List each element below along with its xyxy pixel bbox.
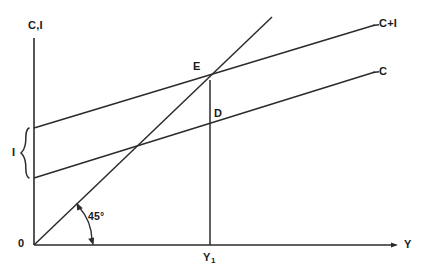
origin-label: 0 xyxy=(18,238,24,249)
y-axis-label: C,I xyxy=(28,20,43,31)
x-axis-label: Y xyxy=(404,239,412,250)
angle-arc-arrowhead-top xyxy=(77,203,83,211)
investment-bracket-label: I xyxy=(12,147,15,158)
c-plus-i-line xyxy=(34,25,375,128)
diagram-canvas xyxy=(0,0,422,279)
economics-diagram: C,I Y 0 C+I C E D I 45° Y1 xyxy=(0,0,422,279)
equilibrium-income-subscript: 1 xyxy=(211,256,216,265)
point-e-label: E xyxy=(193,61,201,72)
equilibrium-income-base: Y xyxy=(203,251,211,263)
x-axis-arrowhead xyxy=(391,242,398,247)
c-curve-label: C xyxy=(379,66,387,77)
forty-five-degree-line xyxy=(34,17,272,245)
point-d-label: D xyxy=(214,108,222,119)
equilibrium-income-label: Y1 xyxy=(203,252,216,265)
c-plus-i-curve-label: C+I xyxy=(379,18,397,29)
c-line xyxy=(34,72,375,178)
angle-label: 45° xyxy=(88,211,104,222)
investment-bracket xyxy=(21,128,29,178)
